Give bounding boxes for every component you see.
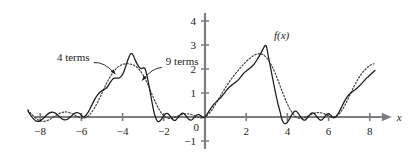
y-tick-label: 3 <box>191 39 197 51</box>
x-tick-label: −4 <box>117 125 129 137</box>
annotation-nine-terms: 9 terms <box>166 55 199 67</box>
fourier-series-plot: −8−6−4−22468−101234x4 terms9 termsf(x) <box>0 0 414 153</box>
x-tick-label: 4 <box>285 125 291 137</box>
annotation-four-terms: 4 terms <box>57 51 90 63</box>
x-tick-label: 6 <box>326 125 332 137</box>
x-axis-label: x <box>396 111 402 123</box>
y-tick-label: 0 <box>194 121 200 133</box>
y-tick-label: 4 <box>191 15 197 27</box>
y-tick-label: 1 <box>191 87 197 99</box>
x-tick-label: −6 <box>76 125 88 137</box>
x-tick-label: −8 <box>34 125 46 137</box>
chart-figure: −8−6−4−22468−101234x4 terms9 termsf(x) <box>0 0 414 153</box>
annotation-function-label: f(x) <box>274 29 290 42</box>
x-tick-label: 2 <box>243 125 249 137</box>
x-tick-label: −2 <box>158 125 170 137</box>
x-tick-label: 8 <box>367 125 373 137</box>
y-tick-label: −1 <box>184 135 196 147</box>
series-4-terms <box>28 54 374 122</box>
x-axis-arrow <box>382 113 392 121</box>
